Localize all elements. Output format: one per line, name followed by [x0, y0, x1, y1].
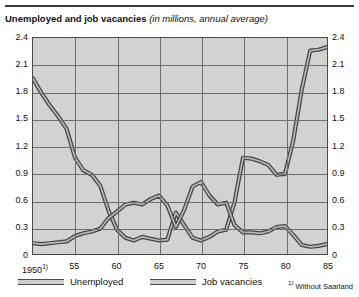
x-axis-tick-label: 60	[97, 262, 137, 271]
y-axis-tick-label: 2.4	[2, 33, 28, 42]
y-axis-tick-label-right: 2.1	[332, 60, 358, 69]
y-axis-tick-label-right: 0.9	[332, 169, 358, 178]
footnote-text: Without Saarland	[293, 282, 353, 291]
x-axis-tick-label: 85	[308, 262, 348, 271]
gridline-vertical	[202, 38, 203, 254]
gridline-vertical	[287, 38, 288, 254]
y-axis-tick-label-right: 2.4	[332, 33, 358, 42]
x-axis-tick-label: 75	[223, 262, 263, 271]
y-axis-tick-label: 0.3	[2, 223, 28, 232]
legend-swatch-job-vacancies	[150, 279, 196, 285]
x-axis-tick-label: 19501)	[15, 262, 55, 275]
y-axis-tick-label: 1.5	[2, 114, 28, 123]
series-line-unemployed	[33, 47, 327, 241]
legend-label-job-vacancies: Job vacancies	[202, 276, 262, 288]
chart-title-main: Unemployed and job vacancies	[5, 13, 149, 24]
gridline-vertical	[244, 38, 245, 254]
series-line-outline-job-vacancies	[33, 182, 327, 247]
chart-page: Unemployed and job vacancies (in million…	[0, 0, 359, 297]
gridline-horizontal	[33, 93, 327, 94]
gridline-horizontal	[33, 174, 327, 175]
x-axis-tick-label: 80	[266, 262, 306, 271]
y-axis-tick-label-right: 0.6	[332, 196, 358, 205]
y-axis-tick-label: 0.6	[2, 196, 28, 205]
gridline-horizontal	[33, 229, 327, 230]
gridline-horizontal	[33, 65, 327, 66]
gridline-horizontal	[33, 147, 327, 148]
top-rule-divider	[5, 5, 354, 7]
plot-area	[32, 37, 328, 255]
y-axis-tick-label: 0.9	[2, 169, 28, 178]
y-axis-tick-label: 0	[2, 251, 28, 260]
y-axis-tick-label-right: 1.2	[332, 142, 358, 151]
chart-series-canvas	[33, 38, 327, 254]
x-axis-tick-label: 70	[181, 262, 221, 271]
gridline-horizontal	[33, 202, 327, 203]
footnote: 1) Without Saarland	[288, 278, 353, 292]
gridline-vertical	[160, 38, 161, 254]
gridline-vertical	[75, 38, 76, 254]
y-axis-tick-label-right: 0	[332, 251, 358, 260]
x-axis-tick-label: 55	[54, 262, 94, 271]
gridline-horizontal	[33, 120, 327, 121]
x-axis-footnote-marker: 1)	[42, 263, 48, 270]
y-axis-tick-label-right: 1.5	[332, 114, 358, 123]
gridline-vertical	[118, 38, 119, 254]
series-line-outline-unemployed	[33, 47, 327, 241]
page-title: Unemployed and job vacancies (in million…	[5, 13, 355, 25]
x-axis-tick-label: 65	[139, 262, 179, 271]
y-axis-tick-label-right: 0.3	[332, 223, 358, 232]
legend-label-unemployed: Unemployed	[70, 276, 123, 288]
y-axis-tick-label: 1.2	[2, 142, 28, 151]
chart-title-subtitle: (in millions, annual average)	[149, 13, 268, 24]
y-axis-tick-label-right: 1.8	[332, 87, 358, 96]
y-axis-tick-label: 2.1	[2, 60, 28, 69]
legend-swatch-unemployed	[18, 279, 64, 285]
y-axis-tick-label: 1.8	[2, 87, 28, 96]
